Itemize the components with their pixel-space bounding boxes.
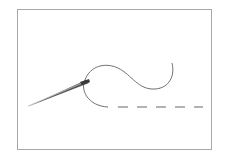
needle-icon [27, 79, 90, 107]
needle-thread-illustration [0, 0, 230, 157]
thread-curve [84, 63, 173, 107]
